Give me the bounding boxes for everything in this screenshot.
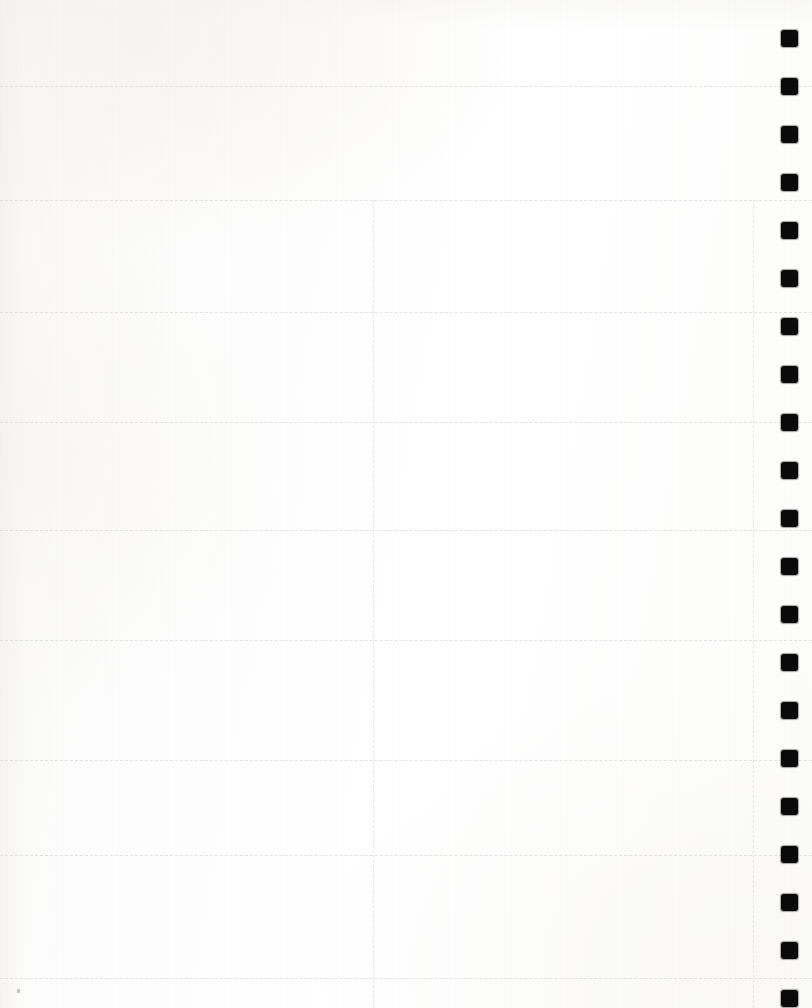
horizontal-rule-5 [0,640,812,641]
punch-hole-1 [781,78,798,95]
punch-hole-0 [781,30,798,47]
paper-background [0,0,812,1008]
punch-hole-13 [781,654,798,671]
horizontal-rule-7 [0,855,812,856]
punch-hole-4 [781,222,798,239]
punch-hole-15 [781,750,798,767]
horizontal-rule-4 [0,530,812,531]
column-divider-right [753,200,754,1008]
punch-hole-16 [781,798,798,815]
punch-hole-9 [781,462,798,479]
punch-hole-10 [781,510,798,527]
horizontal-rule-8 [0,978,812,979]
punch-hole-6 [781,318,798,335]
punch-hole-20 [781,990,798,1007]
punch-hole-3 [781,174,798,191]
punch-hole-14 [781,702,798,719]
horizontal-rule-3 [0,422,812,423]
punch-hole-12 [781,606,798,623]
punch-hole-7 [781,366,798,383]
punch-hole-11 [781,558,798,575]
scanned-page [0,0,812,1008]
scan-speck-bottom-left [17,989,20,993]
punch-hole-18 [781,894,798,911]
punch-hole-2 [781,126,798,143]
punch-hole-17 [781,846,798,863]
horizontal-rule-2 [0,312,812,313]
punch-hole-8 [781,414,798,431]
horizontal-rule-0 [0,86,812,87]
punch-hole-5 [781,270,798,287]
horizontal-rule-6 [0,760,812,761]
punch-hole-19 [781,942,798,959]
horizontal-rule-1 [0,200,812,201]
column-divider-left [373,200,374,1008]
